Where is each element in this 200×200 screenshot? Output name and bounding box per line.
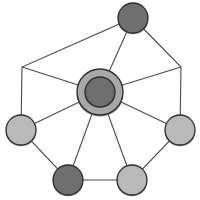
node-left[interactable] (6, 115, 36, 145)
network-diagram (0, 0, 200, 200)
node-bottom-left[interactable] (53, 165, 83, 195)
hub-layer (77, 69, 123, 116)
diagram-canvas (0, 0, 200, 200)
center-hub-core[interactable] (85, 77, 115, 107)
node-top[interactable] (118, 3, 148, 33)
node-right[interactable] (165, 115, 195, 145)
node-bottom-right[interactable] (117, 165, 147, 195)
